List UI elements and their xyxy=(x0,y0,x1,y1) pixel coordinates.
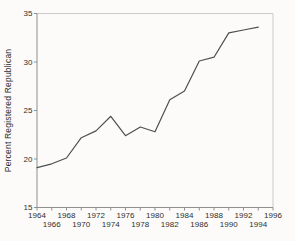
x-tick-label: 1972 xyxy=(87,211,105,220)
x-tick-label: 1978 xyxy=(131,220,149,229)
x-tick-label: 1990 xyxy=(220,220,238,229)
x-tick-label: 1984 xyxy=(176,211,194,220)
x-tick-label: 1974 xyxy=(102,220,120,229)
x-tick-label: 1994 xyxy=(249,220,267,229)
x-tick-label: 1980 xyxy=(146,211,164,220)
data-line xyxy=(37,27,258,168)
x-tick-label: 1982 xyxy=(161,220,179,229)
chart-figure: 1520253035196419661968197019721974197619… xyxy=(0,0,295,241)
y-tick-label: 30 xyxy=(24,58,33,67)
x-tick-label: 1988 xyxy=(205,211,223,220)
y-axis-title: Percent Registered Republican xyxy=(3,49,13,173)
x-tick-label: 1986 xyxy=(190,220,208,229)
y-tick-label: 35 xyxy=(24,9,33,18)
registered-republican-line-chart: 1520253035196419661968197019721974197619… xyxy=(0,0,295,241)
x-tick-label: 1996 xyxy=(264,211,282,220)
plot-area: 1520253035196419661968197019721974197619… xyxy=(24,9,283,229)
x-tick-label: 1964 xyxy=(28,211,46,220)
x-tick-label: 1966 xyxy=(43,220,61,229)
x-tick-label: 1968 xyxy=(58,211,76,220)
y-tick-label: 25 xyxy=(24,106,33,115)
y-tick-label: 20 xyxy=(24,155,33,164)
x-tick-label: 1992 xyxy=(235,211,253,220)
x-tick-label: 1976 xyxy=(117,211,135,220)
x-tick-label: 1970 xyxy=(72,220,90,229)
